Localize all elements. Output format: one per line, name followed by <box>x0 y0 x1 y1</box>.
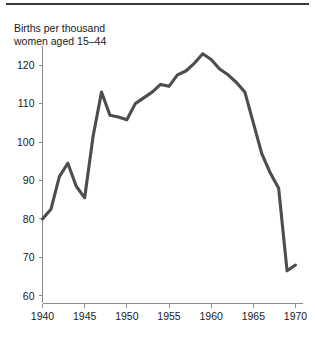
x-tick-label: 1955 <box>157 310 181 322</box>
y-tick-label: 70 <box>23 251 35 263</box>
birth-rate-series-line <box>43 54 296 271</box>
y-axis: 60708090100110120 <box>17 46 43 303</box>
x-axis: 1940194519501955196019651970 <box>31 304 308 322</box>
y-tick-label: 90 <box>23 174 35 186</box>
x-tick-label: 1940 <box>31 310 55 322</box>
y-tick-label: 100 <box>17 136 35 148</box>
y-tick-label: 80 <box>23 213 35 225</box>
x-tick-label: 1965 <box>242 310 266 322</box>
line-chart-plot: 60708090100110120 1940194519501955196019… <box>0 0 315 343</box>
y-tick-label: 110 <box>18 97 35 109</box>
x-tick-label: 1970 <box>284 310 308 322</box>
x-tick-label: 1945 <box>73 310 97 322</box>
y-tick-label: 60 <box>23 290 35 302</box>
birth-rate-figure: Births per thousand women aged 15–44 607… <box>0 0 315 343</box>
x-tick-label: 1960 <box>199 310 223 322</box>
y-tick-group: 60708090100110120 <box>17 59 43 302</box>
x-tick-group: 1940194519501955196019651970 <box>31 304 308 322</box>
y-tick-label: 120 <box>17 59 35 71</box>
x-tick-label: 1950 <box>115 310 139 322</box>
